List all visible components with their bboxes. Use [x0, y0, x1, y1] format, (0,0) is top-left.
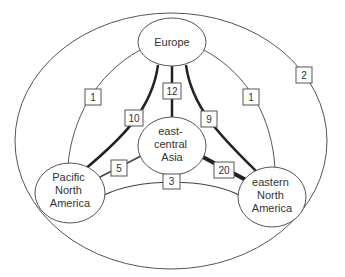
svg-text:5: 5	[116, 163, 122, 174]
svg-text:Europe: Europe	[154, 36, 189, 48]
svg-text:1: 1	[90, 92, 96, 103]
svg-text:9: 9	[206, 114, 212, 125]
node-pna-label-2: North	[55, 184, 82, 196]
edge-europe-ena-outer	[204, 50, 275, 168]
edge-europe-pna-outer	[68, 50, 140, 165]
svg-text:1: 1	[248, 92, 254, 103]
node-pna-label-1: Pacific	[52, 171, 85, 183]
svg-text:20: 20	[218, 165, 230, 176]
node-europe-label: Europe	[154, 36, 189, 48]
node-ena-label-2: North	[257, 189, 284, 201]
node-ena-label-3: America	[252, 202, 293, 214]
migration-diagram: Europe east- central Asia Pacific North …	[0, 0, 345, 277]
node-pna-label-3: America	[50, 197, 91, 209]
edge-label-outer-region: 2	[296, 67, 312, 83]
edge-label-europe-pna-outer: 1	[85, 89, 101, 105]
svg-text:3: 3	[169, 176, 175, 187]
edge-label-europe-pna-inner: 10	[125, 110, 143, 126]
edge-label-europe-ena-outer: 1	[243, 89, 259, 105]
svg-text:Pacific North America: Pacific North America	[50, 171, 91, 209]
svg-text:2: 2	[301, 70, 307, 81]
edge-label-asia-ena: 20	[214, 162, 234, 178]
edge-label-pna-ena: 3	[163, 174, 180, 189]
edge-label-asia-pna: 5	[111, 160, 127, 176]
edge-label-europe-ena-inner: 9	[201, 111, 217, 127]
node-asia-label-3: Asia	[161, 151, 183, 163]
node-ena-label-1: eastern	[252, 176, 289, 188]
svg-text:10: 10	[128, 113, 140, 124]
svg-text:12: 12	[166, 86, 178, 97]
node-asia-label-1: east-	[158, 125, 183, 137]
node-asia-label-2: central	[154, 138, 187, 150]
edge-label-europe-asia: 12	[163, 83, 181, 99]
svg-text:eastern North America: eastern North America	[252, 176, 293, 214]
